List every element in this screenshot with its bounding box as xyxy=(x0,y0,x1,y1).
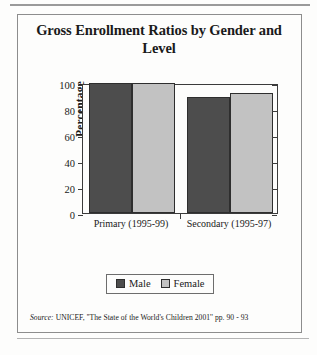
bottom-divider-rule xyxy=(17,338,309,339)
bar-male-1 xyxy=(89,83,132,213)
bars-layer xyxy=(83,85,277,213)
y-tick-mark xyxy=(78,85,83,86)
y-tick-mark xyxy=(78,111,83,112)
y-tick-label: 0 xyxy=(49,210,75,221)
x-axis-group-divider xyxy=(180,214,181,219)
legend-label-female: Female xyxy=(174,278,205,289)
chart-title: Gross Enrollment Ratios by Gender and Le… xyxy=(30,22,288,57)
y-tick-mark xyxy=(78,163,83,164)
plot-area: 020406080100 xyxy=(82,84,278,214)
bar-male-2 xyxy=(187,97,230,213)
y-tick-mark-right xyxy=(272,163,277,164)
y-tick-label: 20 xyxy=(49,184,75,195)
y-tick-mark-right xyxy=(272,215,277,216)
legend-swatch-male xyxy=(116,279,125,288)
y-tick-label: 60 xyxy=(49,132,75,143)
y-tick-mark xyxy=(78,137,83,138)
x-axis-label-1: Primary (1995-99) xyxy=(82,218,180,229)
y-tick-mark-right xyxy=(272,137,277,138)
source-note: Source: UNICEF, ''The State of the World… xyxy=(30,313,248,322)
source-text: UNICEF, ''The State of the World's Child… xyxy=(56,313,249,322)
y-tick-label: 100 xyxy=(49,80,75,91)
legend-swatch-female xyxy=(161,279,170,288)
source-label: Source: xyxy=(30,313,54,322)
chart-figure: Gross Enrollment Ratios by Gender and Le… xyxy=(0,0,317,355)
x-axis-label-2: Secondary (1995-97) xyxy=(180,218,278,229)
bar-female-2 xyxy=(230,93,273,213)
chart-legend: Male Female xyxy=(106,274,214,294)
bar-female-1 xyxy=(132,83,175,213)
y-tick-mark-right xyxy=(272,85,277,86)
legend-item-female: Female xyxy=(161,278,205,289)
y-tick-label: 40 xyxy=(49,158,75,169)
y-tick-mark-right xyxy=(272,189,277,190)
legend-label-male: Male xyxy=(129,278,151,289)
y-tick-mark xyxy=(78,189,83,190)
top-divider-rule xyxy=(10,4,310,6)
y-tick-mark xyxy=(78,215,83,216)
legend-item-male: Male xyxy=(116,278,151,289)
y-tick-mark-right xyxy=(272,111,277,112)
y-tick-label: 80 xyxy=(49,106,75,117)
